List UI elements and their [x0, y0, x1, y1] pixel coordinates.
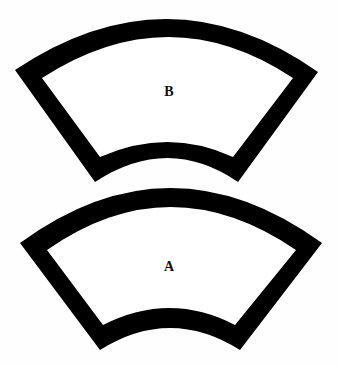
shape-b-label: B [164, 85, 173, 99]
shape-a-label: A [164, 260, 174, 274]
jastrow-illusion-figure [0, 0, 338, 365]
shape-b [15, 19, 318, 182]
figure-canvas: B A [0, 0, 338, 365]
